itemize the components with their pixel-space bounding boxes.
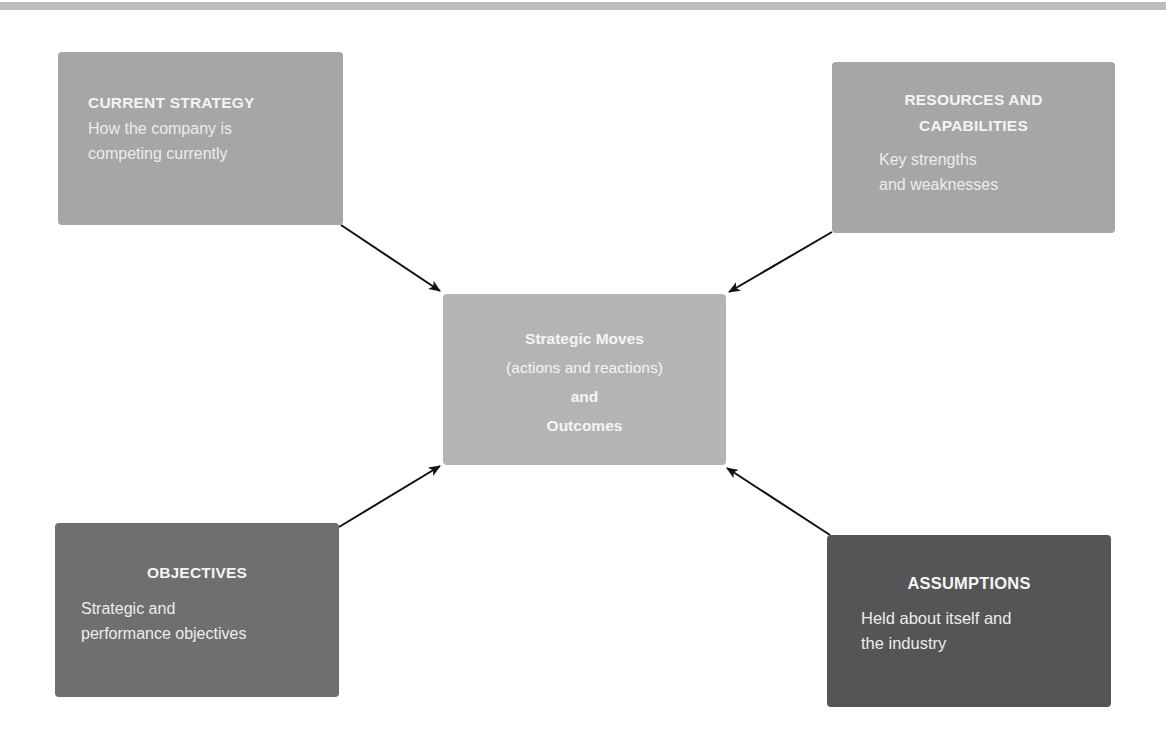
arrow-current-strategy-to-center xyxy=(341,225,440,291)
center-line-outcomes: Outcomes xyxy=(443,411,726,440)
resources-title-line-1: RESOURCES AND xyxy=(852,87,1095,113)
current-strategy-title: CURRENT STRATEGY xyxy=(88,90,343,116)
assumptions-line-2: the industry xyxy=(861,631,1111,656)
resources-capabilities-box: RESOURCES AND CAPABILITIES Key strengths… xyxy=(832,62,1115,233)
center-line-and: and xyxy=(443,382,726,411)
current-strategy-box: CURRENT STRATEGY How the company is comp… xyxy=(58,52,343,225)
resources-capabilities-description: Key strengths and weaknesses xyxy=(879,147,1095,197)
assumptions-title: ASSUMPTIONS xyxy=(861,570,1077,596)
objectives-title: OBJECTIVES xyxy=(81,560,313,586)
resources-line-2: and weaknesses xyxy=(879,172,1095,197)
resources-capabilities-title: RESOURCES AND CAPABILITIES xyxy=(852,87,1095,139)
objectives-description: Strategic and performance objectives xyxy=(81,596,339,646)
assumptions-line-1: Held about itself and xyxy=(861,606,1111,631)
arrow-resources-to-center xyxy=(729,232,832,292)
resources-title-line-2: CAPABILITIES xyxy=(852,113,1095,139)
assumptions-box: ASSUMPTIONS Held about itself and the in… xyxy=(827,535,1111,707)
arrow-assumptions-to-center xyxy=(727,468,830,535)
resources-line-1: Key strengths xyxy=(879,147,1095,172)
objectives-box: OBJECTIVES Strategic and performance obj… xyxy=(55,523,339,697)
assumptions-description: Held about itself and the industry xyxy=(861,606,1111,656)
strategic-moves-outcomes-box: Strategic Moves (actions and reactions) … xyxy=(443,294,726,465)
current-strategy-line-1: How the company is xyxy=(88,116,343,141)
top-rule-divider xyxy=(0,2,1166,10)
current-strategy-line-2: competing currently xyxy=(88,141,343,166)
center-line-actions-reactions: (actions and reactions) xyxy=(443,353,726,382)
objectives-line-1: Strategic and xyxy=(81,596,339,621)
center-line-strategic-moves: Strategic Moves xyxy=(443,324,726,353)
arrow-objectives-to-center xyxy=(339,466,440,527)
objectives-line-2: performance objectives xyxy=(81,621,339,646)
current-strategy-description: How the company is competing currently xyxy=(88,116,343,166)
